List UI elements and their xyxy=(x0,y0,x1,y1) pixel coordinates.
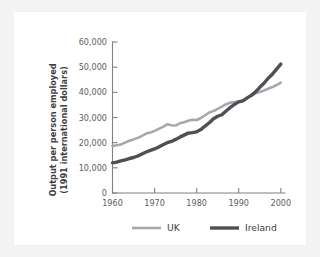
y-axis-title-line1: Output per person employed xyxy=(48,63,58,196)
y-tick-label: 30,000 xyxy=(79,113,107,123)
y-axis-title-line2: (1991 international dollars) xyxy=(59,66,69,194)
y-tick-label: 50,000 xyxy=(79,62,107,72)
x-tick-label: 1970 xyxy=(144,198,165,208)
legend-label-uk: UK xyxy=(167,222,181,233)
chart-legend: UKIreland xyxy=(132,222,277,233)
y-axis-tick-labels: 010,00020,00030,00040,00050,00060,000 xyxy=(79,37,107,198)
y-tick-label: 60,000 xyxy=(79,37,107,47)
y-tick-label: 10,000 xyxy=(79,163,107,173)
y-tick-label: 0 xyxy=(102,188,107,198)
chart-figure: Output per person employed (1991 interna… xyxy=(0,0,320,257)
y-axis-title: Output per person employed (1991 interna… xyxy=(48,63,69,196)
y-tick-label: 20,000 xyxy=(79,138,107,148)
chart-card: Output per person employed (1991 interna… xyxy=(14,12,306,245)
series-line-ireland xyxy=(113,64,281,163)
y-axis-tick-marks xyxy=(113,42,118,193)
x-tick-label: 1990 xyxy=(228,198,249,208)
x-axis-tick-labels: 19601970198019902000 xyxy=(102,198,291,208)
x-tick-label: 1980 xyxy=(186,198,207,208)
line-chart-plot: Output per person employed (1991 interna… xyxy=(14,12,306,245)
x-axis-tick-marks xyxy=(113,188,281,193)
x-tick-label: 2000 xyxy=(270,198,291,208)
data-series-group xyxy=(113,64,281,163)
legend-label-ireland: Ireland xyxy=(245,222,277,233)
x-tick-label: 1960 xyxy=(102,198,123,208)
y-tick-label: 40,000 xyxy=(79,87,107,97)
